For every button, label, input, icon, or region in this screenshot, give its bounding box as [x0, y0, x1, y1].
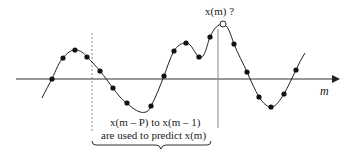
axis-arrow-icon — [332, 75, 340, 83]
sample-dot — [256, 94, 261, 99]
signal-curve — [42, 24, 305, 112]
sample-dot — [161, 73, 166, 78]
sample-dot — [207, 34, 212, 39]
caption-line-2: are used to predict x(m) — [101, 129, 206, 141]
predicted-sample-marker — [220, 21, 226, 27]
sample-dot — [49, 76, 54, 81]
window-brace — [92, 141, 211, 149]
sample-dot — [124, 100, 129, 105]
sample-dot — [196, 54, 201, 59]
sample-dot — [268, 104, 273, 109]
sample-dot — [110, 85, 115, 90]
sample-dot — [72, 47, 77, 52]
sample-dot — [183, 40, 188, 45]
sample-dot — [148, 103, 153, 108]
sample-dot — [171, 48, 176, 53]
sample-dot — [231, 41, 236, 46]
axis-label: m — [320, 85, 329, 97]
caption-line-1: x(m – P) to x(m – 1) — [110, 116, 200, 128]
sample-dot — [293, 67, 298, 72]
sample-dot — [244, 69, 249, 74]
sample-dots — [49, 34, 298, 109]
sample-dot — [84, 54, 89, 59]
sample-dot — [97, 68, 102, 73]
predicted-value-label: x(m) ? — [205, 5, 234, 17]
sample-dot — [60, 55, 65, 60]
sample-dot — [281, 91, 286, 96]
